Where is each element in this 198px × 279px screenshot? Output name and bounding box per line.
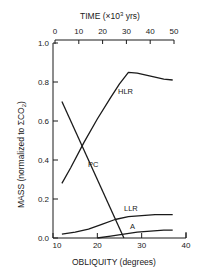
y-tick-label: 1.0 — [38, 39, 50, 48]
y-axis-ticks: 0.00.20.40.60.81.0 — [38, 39, 58, 243]
top-tick-label: 50 — [170, 27, 179, 36]
series-label-hlr: HLR — [118, 87, 134, 96]
series-line-pc — [62, 102, 124, 239]
y-tick-label: 0.8 — [38, 78, 50, 87]
top-axis-title: TIME (×103 yrs) — [80, 11, 140, 21]
x-tick-label: 20 — [93, 241, 102, 250]
series-line-a — [97, 230, 172, 238]
chart-canvas: 0.00.20.40.60.81.0 10203040 01020304050 … — [0, 0, 198, 279]
top-tick-label: 40 — [146, 27, 155, 36]
y-tick-label: 0.6 — [38, 117, 50, 126]
top-axis-ticks: 01020304050 — [53, 27, 179, 44]
y-tick-label: 0.0 — [38, 234, 50, 243]
x-axis-ticks: 10203040 — [53, 233, 191, 250]
y-tick-label: 0.2 — [38, 195, 50, 204]
series-label-llr: LLR — [124, 204, 138, 213]
x-tick-label: 30 — [137, 241, 146, 250]
y-axis-title: MASS (normalized to ΣCO2) — [16, 101, 27, 208]
x-tick-label: 40 — [182, 241, 191, 250]
x-axis-title: OBLIQUITY (degrees) — [72, 257, 156, 267]
top-tick-label: 30 — [122, 27, 131, 36]
plot-axes — [53, 40, 186, 238]
series-label-a: A — [130, 222, 135, 231]
top-tick-label: 20 — [98, 27, 107, 36]
top-tick-label: 10 — [74, 27, 83, 36]
series-group — [62, 72, 173, 238]
x-tick-label: 10 — [53, 241, 62, 250]
top-tick-label: 0 — [53, 27, 58, 36]
y-tick-label: 0.4 — [38, 156, 50, 165]
series-label-pc: PC — [88, 160, 99, 169]
